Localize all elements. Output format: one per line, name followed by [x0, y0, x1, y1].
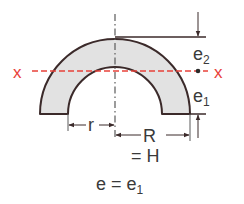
e2-label: e2 [193, 44, 210, 67]
axis-label-left: x [13, 63, 22, 82]
r-label: r [88, 115, 94, 135]
centroid-dot [196, 69, 201, 74]
R-label: R [143, 126, 156, 146]
e-formula: e = e1 [96, 174, 144, 197]
axis-label-right: x [214, 63, 223, 82]
e1-label: e1 [193, 86, 210, 109]
section-diagram: x x e2 e1 r R = H e = e1 [0, 0, 244, 204]
height-formula: = H [131, 146, 160, 166]
